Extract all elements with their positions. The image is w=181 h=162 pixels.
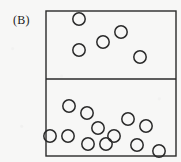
frame-rect [46,11,176,156]
particle-group-bottom [44,100,165,157]
particle-circle [63,100,75,112]
particle-circle [108,130,120,142]
particle-circle [73,13,85,25]
particle-circle [62,130,74,142]
figure-panel-b: (B) [0,0,181,162]
particle-circle [115,26,127,38]
particle-group-top [73,13,146,63]
particle-circle [81,107,93,119]
particle-circle [140,120,152,132]
particle-circle [134,51,146,63]
particle-circle [82,138,94,150]
particle-circle [100,138,112,150]
particle-circle [131,139,143,151]
particle-circle [73,44,85,56]
particle-circle [92,122,104,134]
container-frame [46,11,176,156]
particle-circle [97,36,109,48]
particle-circle [122,113,134,125]
compartment-diagram [0,0,181,162]
